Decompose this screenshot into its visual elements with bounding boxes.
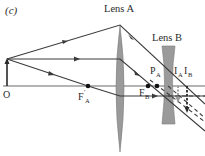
optics-diagram: (c) Lens A Lens B O F ′ A P A F B I A I … bbox=[0, 0, 205, 156]
point-pa-dot bbox=[155, 84, 160, 89]
svg-text:A: A bbox=[156, 71, 161, 78]
svg-text:A: A bbox=[85, 97, 90, 104]
lens-a-label: Lens A bbox=[104, 3, 134, 14]
focal-b-label: F B bbox=[139, 87, 150, 100]
focal-a-prime-label: F ′ A bbox=[78, 88, 90, 104]
image-b-label: I B bbox=[184, 65, 193, 78]
object-label: O bbox=[3, 89, 10, 100]
svg-text:B: B bbox=[145, 93, 150, 100]
ray-arrow-icon bbox=[48, 71, 55, 76]
svg-text:B: B bbox=[188, 71, 193, 78]
panel-label: (c) bbox=[5, 4, 18, 17]
ray-arrow-icon bbox=[74, 57, 80, 62]
svg-text:A: A bbox=[178, 71, 183, 78]
svg-text:I: I bbox=[174, 65, 177, 76]
ray-arrow-icon bbox=[152, 94, 158, 99]
focal-point-a-prime-dot bbox=[86, 84, 91, 89]
svg-text:′: ′ bbox=[84, 88, 86, 96]
focal-point-b-dot bbox=[146, 84, 151, 89]
lens-b bbox=[162, 46, 175, 124]
lens-b-label: Lens B bbox=[152, 32, 182, 43]
svg-text:I: I bbox=[184, 65, 187, 76]
point-pa-label: P A bbox=[150, 65, 161, 78]
lens-a bbox=[116, 26, 124, 152]
